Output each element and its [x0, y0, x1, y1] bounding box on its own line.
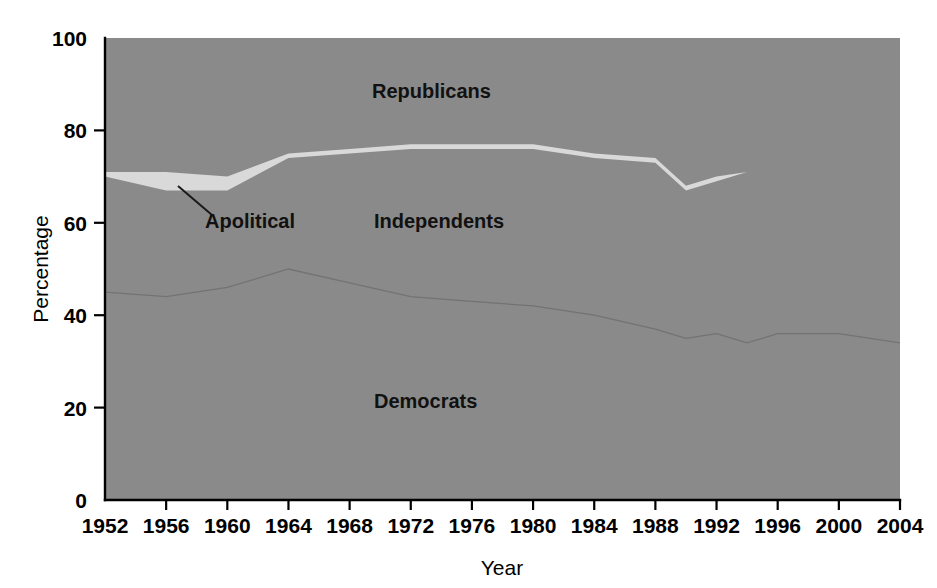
y-axis-title: Percentage: [29, 215, 52, 322]
y-tick-label: 0: [75, 489, 87, 512]
x-tick-label: 1964: [265, 514, 312, 537]
x-tick-label: 1988: [632, 514, 679, 537]
x-tick-label: 1972: [387, 514, 434, 537]
x-axis-title: Year: [481, 556, 523, 579]
x-tick-label: 1996: [754, 514, 801, 537]
chart-figure: 020406080100 195219561960196419681972197…: [0, 0, 937, 588]
x-tick-label: 1976: [449, 514, 496, 537]
x-tick-label: 1960: [204, 514, 251, 537]
y-tick-label: 20: [64, 397, 87, 420]
series-label-democrats: Democrats: [374, 390, 477, 412]
y-tick-label: 40: [64, 304, 87, 327]
series-label-apolitical: Apolitical: [205, 210, 295, 232]
y-tick-label: 60: [64, 212, 87, 235]
x-tick-label: 1980: [510, 514, 557, 537]
plot-area: [105, 38, 900, 500]
x-tick-label: 1952: [82, 514, 129, 537]
x-tick-label: 2000: [815, 514, 862, 537]
series-label-republicans: Republicans: [372, 80, 491, 102]
y-tick-label: 100: [52, 27, 87, 50]
stacked-area-chart: 020406080100 195219561960196419681972197…: [0, 0, 937, 588]
series-label-independents: Independents: [374, 210, 504, 232]
x-tick-label: 1992: [693, 514, 740, 537]
x-tick-label: 1984: [571, 514, 618, 537]
x-tick-label: 1968: [326, 514, 373, 537]
y-tick-label: 80: [64, 119, 87, 142]
x-tick-label: 2004: [877, 514, 924, 537]
stacked-area-base: [105, 38, 900, 500]
x-tick-label: 1956: [143, 514, 190, 537]
